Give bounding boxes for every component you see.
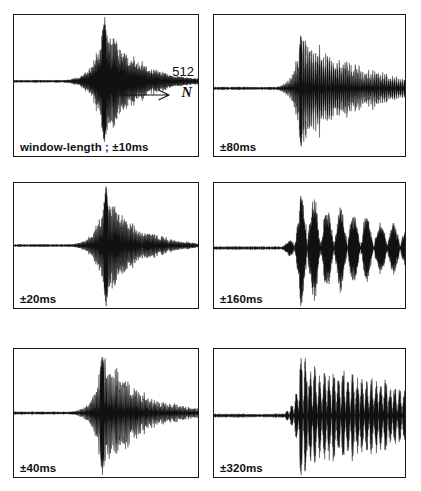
- waveform-trace: [214, 36, 405, 147]
- panel-label: ±320ms: [220, 463, 263, 475]
- waveform-plot: [214, 15, 405, 156]
- waveform-trace: [14, 17, 198, 142]
- waveform-plot: [214, 183, 405, 308]
- panel-80ms: ±80ms: [213, 14, 406, 157]
- waveform-trace: [14, 186, 198, 306]
- waveform-trace: [14, 357, 198, 475]
- panel-320ms: ±320ms: [213, 348, 406, 478]
- sample-count-label: 512: [172, 65, 194, 78]
- right-arrow-icon: [120, 88, 174, 102]
- panel-160ms: ±160ms: [213, 182, 406, 309]
- waveform-plot: [14, 349, 198, 477]
- panel-label: ±160ms: [220, 294, 263, 306]
- waveform-figure: window-length ; ±10ms512N±80ms±20ms±160m…: [0, 0, 421, 491]
- panel-label: window-length ; ±10ms: [20, 142, 149, 154]
- waveform-plot: [14, 15, 198, 156]
- waveform-trace: [214, 358, 405, 475]
- waveform-trace: [214, 196, 405, 306]
- panel-label: ±20ms: [20, 294, 56, 306]
- axis-letter-n: N: [182, 85, 192, 100]
- panel-label: ±40ms: [20, 463, 56, 475]
- waveform-plot: [14, 183, 198, 308]
- panel-20ms: ±20ms: [13, 182, 199, 309]
- panel-40ms: ±40ms: [13, 348, 199, 478]
- panel-10ms: window-length ; ±10ms512N: [13, 14, 199, 157]
- waveform-plot: [214, 349, 405, 477]
- panel-label: ±80ms: [220, 142, 256, 154]
